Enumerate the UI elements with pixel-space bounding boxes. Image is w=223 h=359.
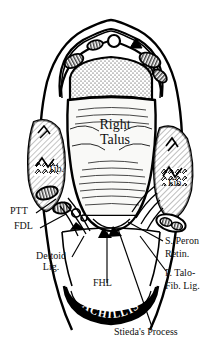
label-s-peron-line2: Retin.: [165, 249, 199, 260]
center-label-line1: Right: [92, 117, 138, 132]
anatomy-figure: ACHILLIS: [0, 0, 223, 359]
label-p-talo-line1: P. Talo-: [165, 268, 200, 279]
label-posterior-talofibular-ligament: P. Talo- Fib. Lig.: [165, 268, 200, 292]
label-tibia: Tib.: [48, 164, 64, 175]
label-superior-peroneal-retinaculum: S. Peron Retin.: [165, 236, 199, 260]
center-label-line2: Talus: [92, 132, 138, 147]
ankle-cross-section-illustration: ACHILLIS: [0, 0, 223, 359]
label-deltoid-line2: Lig.: [29, 262, 73, 273]
label-ptt: PTT: [10, 206, 28, 217]
label-stiedas-process: Stieda's Process: [114, 327, 178, 338]
label-fdl: FDL: [14, 221, 33, 232]
label-p-talo-line2: Fib. Lig.: [165, 281, 200, 292]
artery-circle: [108, 35, 120, 47]
label-fibula: Fib.: [168, 178, 184, 189]
label-fhl: FHL: [93, 278, 112, 289]
label-s-peron-line1: S. Peron: [165, 236, 199, 247]
page-title: Right Talus: [92, 117, 138, 147]
label-deltoid-ligament: Deltoid Lig.: [29, 251, 73, 273]
